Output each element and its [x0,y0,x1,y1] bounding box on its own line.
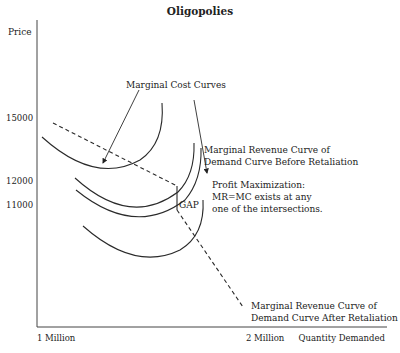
x-tick-label: 1 Million [37,333,76,343]
profit-max-label: Profit Maximization: [212,180,305,190]
mr-before-label: Demand Curve Before Retaliation [204,157,358,167]
mr-after-label: Marginal Revenue Curve of [251,301,377,311]
mc-pointer-arrow [103,90,139,163]
mc-curves-label: Marginal Cost Curves [126,80,226,90]
y-tick-label: 12000 [6,176,33,186]
mr-after-label: Demand Curve After Retaliation [251,313,398,323]
profit-max-label: MR=MC exists at any [212,192,312,202]
chart-title: Oligopolies [167,5,233,17]
gap-label: GAP [179,200,199,210]
x-axis-label: Quantity Demanded [299,333,386,343]
oligopolies-chart: Oligopolies Price 15000 12000 11000 1 Mi… [0,0,400,353]
mr-before-retaliation-line [53,123,177,186]
y-tick-label: 15000 [6,113,33,123]
y-axis-label: Price [8,27,32,37]
mr-before-label: Marginal Revenue Curve of [204,145,330,155]
y-tick-label: 11000 [6,200,33,210]
mc-curve-2 [75,143,194,207]
mc-curve-1 [42,103,162,169]
profit-max-label: one of the intersections. [212,204,323,214]
mr-after-retaliation-line [177,210,243,307]
x-tick-label: 2 Million [246,333,285,343]
